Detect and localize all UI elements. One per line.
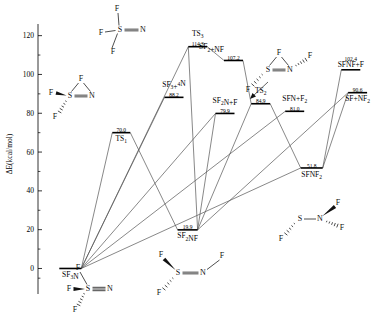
atom-f-lower: F [157, 288, 162, 297]
energy-profile-figure: 020406080100120ΔE(kcal/mol) SF3N70.0TS11… [0, 0, 382, 320]
atom-f-lower: F [111, 47, 116, 56]
bond-line [72, 83, 79, 92]
level-name: SFN+F2 [282, 94, 307, 104]
atom-f-left: F [99, 28, 104, 37]
y-axis-tick-label: 120 [23, 31, 35, 40]
bond-wedge [74, 287, 86, 291]
level-name: SF2N+F [213, 96, 238, 107]
atom-n: N [89, 91, 95, 100]
connection-line [81, 168, 300, 269]
y-axis-tick-label: 0 [30, 264, 34, 273]
level-name: SF2NF [177, 231, 198, 242]
atom-f-on-n: F [308, 51, 313, 60]
y-axis-tick-label: 20 [27, 225, 35, 234]
atom-f-lower: F [53, 112, 58, 121]
atom-f-lower: F [279, 234, 284, 243]
level-name: SF3+4N [162, 79, 186, 91]
structure-sf3n: FFFSN [67, 263, 113, 314]
structure-sf2nf: FFFSN [157, 250, 225, 297]
level-value: 70.0 [116, 127, 126, 133]
energy-level-sfn_f2: 81.0SFN+F2 [282, 94, 307, 112]
atom-f-lower: F [73, 305, 78, 314]
connection-line [270, 104, 301, 168]
bond-double [273, 69, 286, 71]
atom-f-left: F [67, 284, 72, 293]
atom-f-upper: F [159, 250, 164, 259]
bond-line [270, 57, 277, 66]
atom-s: S [298, 214, 302, 223]
bond-hash [58, 101, 67, 113]
atom-s: S [86, 284, 90, 293]
atom-s: S [118, 25, 122, 34]
connection-line [198, 104, 252, 230]
bond-double [183, 272, 199, 274]
connection-line [243, 60, 251, 103]
level-name: SF+NF2 [345, 94, 370, 104]
level-value: 107.2 [227, 55, 240, 61]
connection-lines [81, 47, 348, 269]
energy-level-sf_nf2: 90.6SF+NF2 [345, 87, 370, 104]
atom-f-bridge: F [79, 74, 84, 83]
level-name: TS2 [255, 86, 267, 96]
level-value: 88.2 [169, 92, 179, 98]
atom-f-lower: F [246, 85, 251, 94]
level-name: SFNF2 [301, 170, 322, 180]
structure-sf3n-top: FFFSN [99, 4, 146, 56]
bond-hash [296, 58, 307, 66]
bond-hash [326, 221, 338, 228]
atom-f-right: F [340, 223, 345, 232]
atom-f-bridge: F [277, 48, 282, 57]
energy-level-sfnf2: 51.8SFNF2 [301, 163, 323, 180]
bond-line [80, 272, 87, 285]
atom-f-top: F [115, 4, 120, 13]
connection-line [188, 47, 197, 230]
structure-sfnf2: FFFSN [279, 198, 345, 243]
level-value: 79.9 [220, 108, 230, 114]
connection-line [81, 97, 164, 268]
bond-double [75, 95, 88, 97]
y-axis: 020406080100120ΔE(kcal/mol) [5, 24, 42, 294]
energy-level-sf2nf: 19.9SF2NF [177, 224, 198, 242]
level-name: SF2+NF [199, 42, 224, 53]
atom-f-upper: F [336, 198, 341, 207]
bond-triple [93, 287, 106, 290]
bond-hash [162, 278, 173, 291]
molecular-structures: FFFSNFFFSNFFFSNFFFSNFFFSNFFFSN [49, 4, 345, 314]
atom-n: N [317, 214, 323, 223]
y-axis-tick-label: 60 [27, 148, 35, 157]
atom-s: S [266, 65, 270, 74]
level-name: SFNF+F [338, 60, 364, 69]
atom-n: N [140, 25, 146, 34]
atom-f-on-n: F [220, 251, 225, 260]
energy-level-sf3_4n: 88.2SF3+4N [162, 79, 186, 98]
level-value: 81.0 [290, 106, 300, 112]
bond-wedge [323, 205, 337, 216]
y-axis-label: ΔE(kcal/mol) [5, 133, 14, 174]
atom-f-left: F [49, 88, 54, 97]
energy-levels: SF3N70.0TS119.9SF2NF114.3TS388.2SF3+4N10… [59, 29, 370, 281]
structure-ts1: FFFSN [49, 74, 95, 121]
level-value: 19.9 [183, 224, 193, 230]
bond-line [112, 34, 118, 49]
atom-s: S [68, 91, 72, 100]
atom-n: N [287, 65, 293, 74]
atom-f-top: F [76, 263, 81, 272]
bond-line [118, 13, 119, 26]
level-value: 90.6 [353, 87, 363, 93]
bond-hash [284, 223, 295, 235]
level-value: 51.8 [307, 163, 317, 169]
bond-wedge [163, 258, 176, 270]
atom-s: S [176, 268, 180, 277]
bond-hash [251, 74, 262, 86]
connection-line [130, 133, 177, 230]
y-axis-tick-label: 40 [27, 186, 35, 195]
bond-hash [77, 293, 85, 305]
level-name: TS1 [116, 134, 128, 144]
energy-level-ts1: 70.0TS1 [112, 127, 130, 144]
atom-n: N [200, 268, 206, 277]
level-name: TS3 [192, 29, 204, 39]
y-axis-tick-label: 100 [23, 70, 35, 79]
y-axis-tick-label: 80 [27, 109, 35, 118]
bond-line [105, 31, 116, 33]
connection-line [323, 70, 342, 168]
